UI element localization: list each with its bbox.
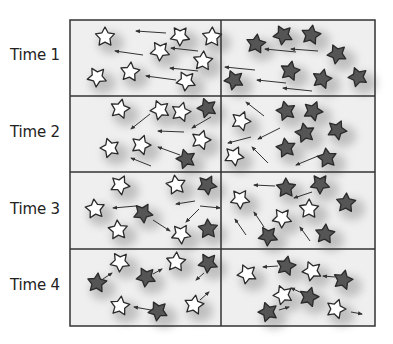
particle-diagram: Time 1Time 2Time 3Time 4 bbox=[0, 0, 393, 344]
time-label-4: Time 4 bbox=[10, 276, 70, 294]
time-label-1: Time 1 bbox=[10, 46, 70, 64]
time-label-2: Time 2 bbox=[10, 123, 70, 141]
time-label-3: Time 3 bbox=[10, 200, 70, 218]
